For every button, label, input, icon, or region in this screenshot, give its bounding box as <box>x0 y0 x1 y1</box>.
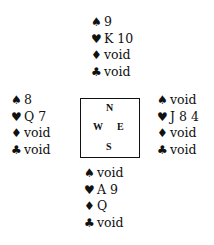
heart-icon: ♥ <box>157 110 170 126</box>
west-spades: ♠8 <box>11 92 51 109</box>
compass-west: W <box>93 121 103 132</box>
west-clubs: ♣void <box>11 142 51 159</box>
west-hand: ♠8 ♥Q 7 ♦void ♣void <box>11 92 51 158</box>
compass-south: S <box>106 141 112 152</box>
south-hand: ♠void ♥A 9 ♦Q ♣void <box>84 165 124 231</box>
north-diamonds: ♦void <box>91 47 133 64</box>
north-spades: ♠9 <box>91 14 133 31</box>
diamond-icon: ♦ <box>157 126 170 142</box>
north-hearts: ♥K 10 <box>91 31 133 48</box>
south-clubs: ♣void <box>84 215 124 232</box>
north-hand: ♠9 ♥K 10 ♦void ♣void <box>91 14 133 80</box>
east-hand: ♠void ♥J 8 4 ♦void ♣void <box>157 92 199 158</box>
south-spades: ♠void <box>84 165 124 182</box>
club-icon: ♣ <box>84 216 97 232</box>
south-hearts: ♥A 9 <box>84 182 124 199</box>
diamond-icon: ♦ <box>91 48 104 64</box>
west-hearts: ♥Q 7 <box>11 109 51 126</box>
east-diamonds: ♦void <box>157 125 199 142</box>
diamond-icon: ♦ <box>84 199 97 215</box>
spade-icon: ♠ <box>157 93 170 109</box>
compass-north: N <box>106 102 113 113</box>
club-icon: ♣ <box>11 143 24 159</box>
spade-icon: ♠ <box>91 15 104 31</box>
south-diamonds: ♦Q <box>84 198 124 215</box>
heart-icon: ♥ <box>91 32 104 48</box>
club-icon: ♣ <box>157 143 170 159</box>
heart-icon: ♥ <box>84 183 97 199</box>
spade-icon: ♠ <box>84 166 97 182</box>
spade-icon: ♠ <box>11 93 24 109</box>
club-icon: ♣ <box>91 65 104 81</box>
east-clubs: ♣void <box>157 142 199 159</box>
compass-box: N W E S <box>80 98 140 158</box>
east-spades: ♠void <box>157 92 199 109</box>
diamond-icon: ♦ <box>11 126 24 142</box>
west-diamonds: ♦void <box>11 125 51 142</box>
north-clubs: ♣void <box>91 64 133 81</box>
compass-east: E <box>117 121 124 132</box>
east-hearts: ♥J 8 4 <box>157 109 199 126</box>
heart-icon: ♥ <box>11 110 24 126</box>
